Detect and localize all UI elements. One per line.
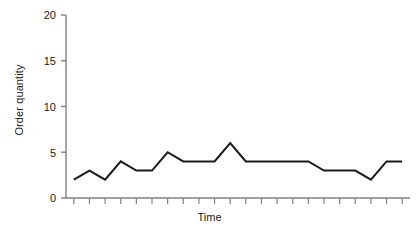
- data-series-line: [74, 143, 402, 180]
- axis-lines: [66, 15, 410, 198]
- plot-area: [0, 0, 419, 235]
- x-axis-title: Time: [0, 211, 419, 223]
- y-axis-ticks: [61, 15, 66, 198]
- x-axis-ticks: [74, 198, 402, 204]
- chart-container: Order quantity 20 15 10 5 0 Time: [0, 0, 419, 235]
